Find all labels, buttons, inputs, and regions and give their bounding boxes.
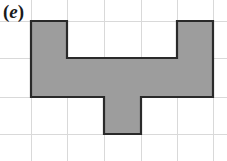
polyomino-outline bbox=[31, 21, 213, 134]
polyomino-shape bbox=[0, 0, 227, 161]
polyomino-layer bbox=[0, 0, 227, 161]
figure-label-close-paren: ) bbox=[18, 1, 24, 22]
figure-label: (e) bbox=[3, 0, 24, 24]
figure-label-letter: e bbox=[9, 1, 17, 22]
figure-panel: (e) bbox=[0, 0, 227, 161]
